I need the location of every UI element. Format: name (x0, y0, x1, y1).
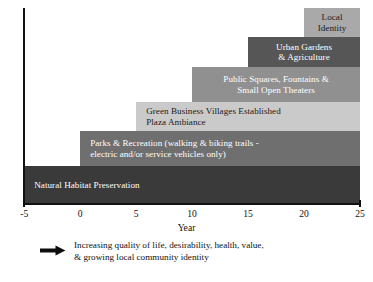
band-public-squares-label: Public Squares, Fountains & Small Open T… (192, 74, 360, 95)
x-tick-label-minus-5: -5 (20, 208, 28, 219)
arrow-right-icon (40, 240, 66, 260)
band-natural-habitat-label: Natural Habitat Preservation (34, 180, 139, 191)
band-parks-recreation: Parks & Recreation (walking & biking tra… (80, 131, 360, 166)
x-tick-label-20: 20 (299, 208, 309, 219)
caption-line-1: Increasing quality of life, desirability… (74, 240, 264, 252)
x-axis-title: Year (0, 222, 373, 233)
band-natural-habitat-line-1: Natural Habitat Preservation (34, 180, 139, 191)
x-tick-label-15: 15 (243, 208, 253, 219)
caption-line-2: & growing local community identity (74, 252, 264, 264)
band-public-squares-line-2: Small Open Theaters (192, 85, 360, 96)
band-green-business-line-2: Plaza Ambiance (146, 117, 281, 128)
staircase-development-chart: Local Identity Urban Gardens & Agricultu… (0, 0, 373, 282)
x-tick-label-0: 0 (78, 208, 83, 219)
band-green-business-line-1: Green Business Villages Established (146, 106, 281, 117)
band-public-squares-line-1: Public Squares, Fountains & (192, 74, 360, 85)
x-axis-tick-minus-5 (23, 200, 25, 207)
band-parks-recreation-line-1: Parks & Recreation (walking & biking tra… (90, 138, 259, 149)
band-urban-gardens-line-1: Urban Gardens (248, 42, 360, 53)
y-axis-spine (23, 8, 25, 205)
x-axis-tick-25 (359, 200, 361, 207)
x-axis-line (23, 203, 360, 205)
band-parks-recreation-line-2: electric and/or service vehicles only) (90, 149, 259, 160)
plot-area: Local Identity Urban Gardens & Agricultu… (0, 0, 373, 205)
band-local-identity-line-2: Identity (304, 23, 360, 34)
chart-caption: Increasing quality of life, desirability… (40, 240, 360, 264)
band-urban-gardens: Urban Gardens & Agriculture (248, 37, 360, 67)
band-green-business-label: Green Business Villages Established Plaz… (146, 106, 281, 127)
x-tick-label-10: 10 (187, 208, 197, 219)
x-axis-tick-labels: -5 0 5 10 15 20 25 (0, 0, 373, 20)
x-tick-label-5: 5 (134, 208, 139, 219)
band-parks-recreation-label: Parks & Recreation (walking & biking tra… (90, 138, 259, 159)
band-natural-habitat: Natural Habitat Preservation (24, 166, 360, 203)
band-urban-gardens-label: Urban Gardens & Agriculture (248, 42, 360, 63)
band-urban-gardens-line-2: & Agriculture (248, 52, 360, 63)
band-public-squares: Public Squares, Fountains & Small Open T… (192, 67, 360, 102)
x-tick-label-25: 25 (355, 208, 365, 219)
caption-text: Increasing quality of life, desirability… (74, 240, 264, 264)
band-green-business: Green Business Villages Established Plaz… (136, 102, 360, 131)
